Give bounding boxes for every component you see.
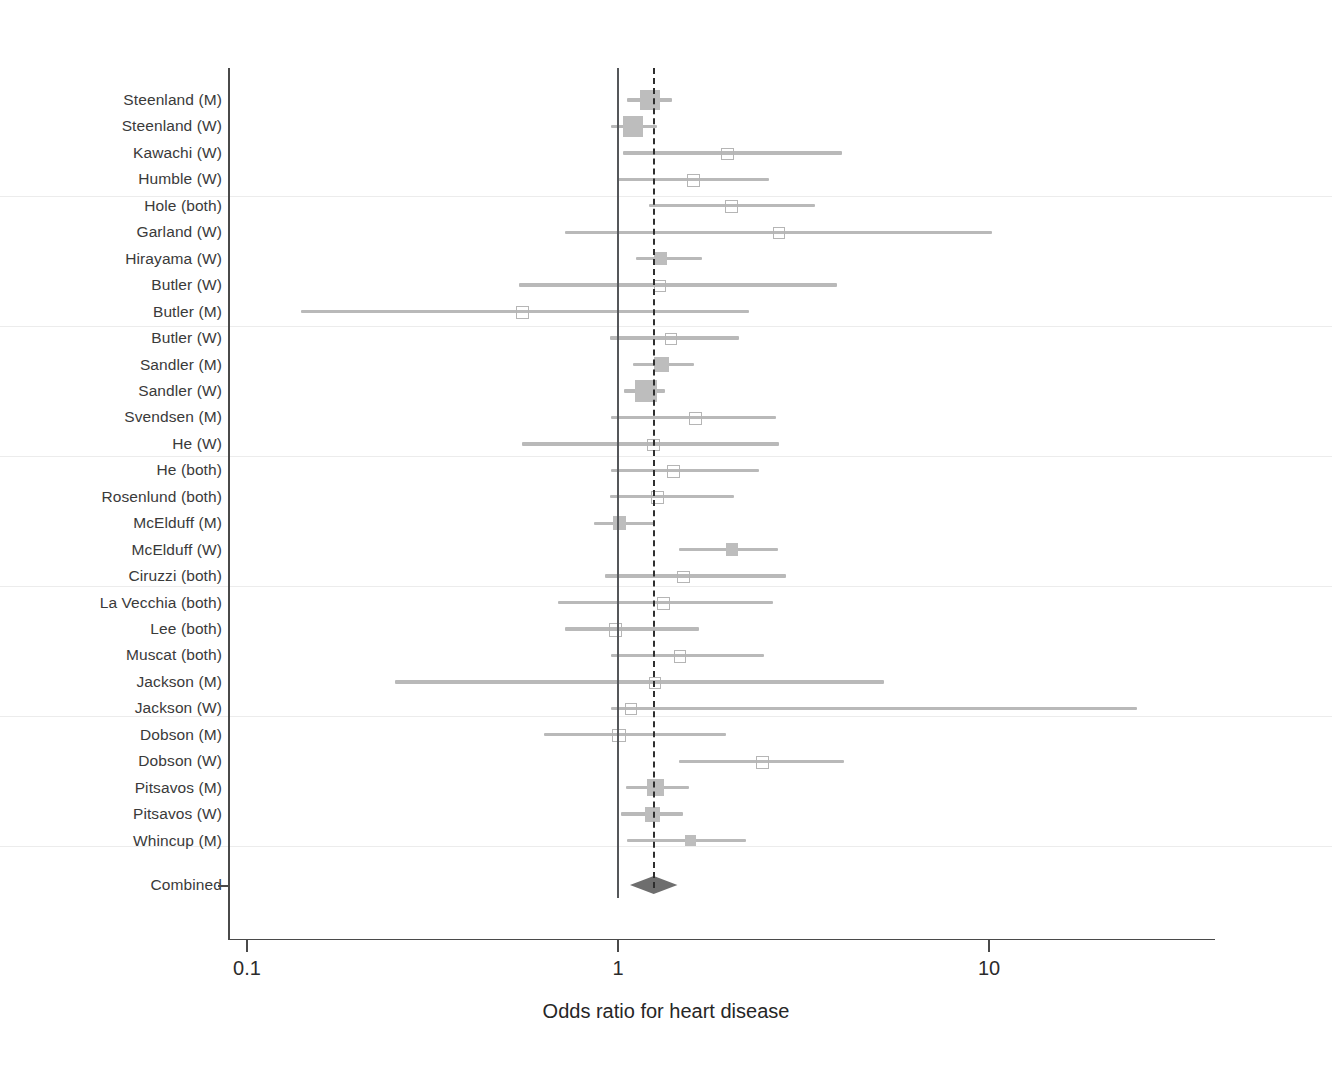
point-estimate-marker <box>654 280 667 293</box>
x-axis-tick-label-2: 1 <box>612 957 623 980</box>
x-axis-tick-label-1: 0.1 <box>233 957 261 980</box>
null-effect-reference-line <box>617 68 619 898</box>
point-estimate-marker <box>677 571 690 584</box>
confidence-interval-line <box>611 654 763 657</box>
plot-area <box>0 0 1332 1085</box>
point-estimate-marker <box>647 779 664 796</box>
point-estimate-marker <box>516 306 529 319</box>
point-estimate-marker <box>687 174 700 187</box>
point-estimate-marker <box>640 90 659 109</box>
point-estimate-marker <box>625 703 637 715</box>
confidence-interval-line <box>611 707 1136 710</box>
confidence-interval-line <box>605 574 787 577</box>
x-axis-tick-2 <box>617 940 619 952</box>
point-estimate-marker <box>689 412 702 425</box>
pooled-estimate-reference-line <box>653 68 655 888</box>
confidence-interval-line <box>544 733 727 736</box>
confidence-interval-line <box>565 627 699 630</box>
confidence-interval-line <box>611 469 759 472</box>
point-estimate-marker <box>654 252 667 265</box>
point-estimate-marker <box>613 516 627 530</box>
x-axis-tick-3 <box>988 940 990 952</box>
point-estimate-marker <box>657 597 670 610</box>
x-axis-title: Odds ratio for heart disease <box>0 1000 1332 1023</box>
point-estimate-marker <box>685 835 697 847</box>
combined-row-tick <box>218 885 229 887</box>
point-estimate-marker <box>667 465 680 478</box>
confidence-interval-line <box>636 257 701 260</box>
confidence-interval-line <box>395 680 884 683</box>
confidence-interval-line <box>519 283 838 286</box>
point-estimate-marker <box>756 756 769 769</box>
point-estimate-marker <box>773 227 785 239</box>
x-axis-tick-label-3: 10 <box>978 957 1000 980</box>
point-estimate-marker <box>665 333 678 346</box>
point-estimate-marker <box>721 148 734 161</box>
point-estimate-marker <box>726 543 739 556</box>
point-estimate-marker <box>609 623 622 636</box>
point-estimate-marker <box>623 116 643 136</box>
point-estimate-marker <box>674 650 687 663</box>
forest-plot-figure: Steenland (M)Steenland (W)Kawachi (W)Hum… <box>0 0 1332 1085</box>
point-estimate-marker <box>654 357 669 372</box>
point-estimate-marker <box>725 200 738 213</box>
confidence-interval-line <box>610 495 734 498</box>
x-axis-tick-1 <box>246 940 248 952</box>
point-estimate-marker <box>612 729 625 742</box>
